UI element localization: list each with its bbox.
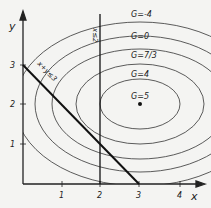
- contour-label-g4: G=4: [131, 70, 149, 79]
- contour-label-g5: G=5: [131, 92, 149, 101]
- contour-gm4: [15, 22, 211, 186]
- contour-label-gm4: G=-4: [131, 10, 152, 19]
- y-tick-2: 2: [10, 100, 15, 109]
- contour-diagram: x y 1 2 3 4 1 2 3 G=-4 G=0 G=7/3 G=4 G=5…: [0, 0, 211, 208]
- constraint-label-x-le-2: x≤2: [91, 27, 99, 43]
- y-tick-1: 1: [10, 140, 15, 149]
- y-axis-arrow-icon: [20, 11, 26, 20]
- x-axis-label: x: [190, 190, 198, 203]
- x-tick-2: 2: [97, 191, 102, 200]
- y-axis-label: y: [8, 20, 16, 33]
- contour-label-g0: G=0: [131, 32, 149, 41]
- contour-label-g73: G=7/3: [131, 51, 157, 60]
- optimum-point: [138, 102, 142, 106]
- constraint-line-x-plus-y-le-3: [23, 65, 139, 184]
- x-tick-4: 4: [177, 191, 182, 200]
- x-tick-3: 3: [136, 191, 141, 200]
- x-tick-1: 1: [59, 191, 64, 200]
- y-tick-3: 3: [10, 61, 15, 70]
- x-axis-arrow-icon: [196, 181, 205, 187]
